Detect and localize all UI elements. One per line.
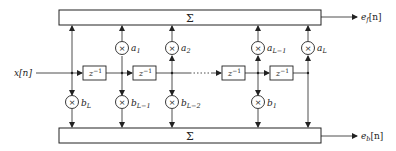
svg-text:a1: a1 — [131, 43, 141, 55]
forward-error-output: ef[n] — [321, 12, 382, 24]
delay-block-1: z−1 — [83, 66, 106, 80]
multiplier-b-L-minus-2: × bL−2 — [166, 96, 201, 111]
multiplier-b-L: × bL — [66, 96, 92, 111]
multiplier-a-L-minus-1: × aL−1 — [252, 42, 287, 56]
block-diagram: Σ Σ ef[n] eb[n] x[n] — [0, 0, 396, 151]
multiplier-a-L: × aL — [302, 42, 327, 56]
svg-text:bL−1: bL−1 — [131, 98, 151, 110]
multiplier-b-L-minus-1: × bL−1 — [116, 96, 151, 111]
svg-text:a2: a2 — [181, 43, 191, 55]
svg-text:bL−2: bL−2 — [181, 98, 201, 110]
multiplier-a-1: × a1 — [116, 42, 141, 56]
input-label: x[n] — [14, 68, 32, 78]
backward-error-output: eb[n] — [321, 131, 383, 143]
svg-text:×: × — [119, 98, 126, 107]
svg-text:×: × — [255, 98, 262, 107]
multiplier-b-1: × b1 — [252, 96, 277, 111]
svg-text:bL: bL — [81, 98, 91, 110]
multiplier-a-2: × a2 — [166, 42, 191, 56]
svg-text:aL: aL — [317, 43, 327, 55]
input-signal: x[n] — [14, 68, 72, 78]
sum-top-symbol: Σ — [186, 12, 194, 25]
svg-text:×: × — [119, 44, 126, 53]
delay-block-4: z−1 — [270, 66, 293, 80]
sum-bottom-symbol: Σ — [186, 130, 194, 143]
delay-block-3: z−1 — [222, 66, 245, 80]
svg-text:×: × — [255, 44, 262, 53]
svg-text:×: × — [69, 98, 76, 107]
forward-error-label: ef[n] — [361, 12, 382, 24]
sum-bottom-block: Σ — [59, 128, 321, 143]
svg-text:aL−1: aL−1 — [267, 43, 286, 55]
backward-error-label: eb[n] — [361, 131, 383, 143]
svg-text:×: × — [169, 98, 176, 107]
svg-text:b1: b1 — [267, 98, 277, 110]
svg-text:×: × — [169, 44, 176, 53]
sum-top-block: Σ — [59, 10, 321, 25]
delay-block-2: z−1 — [133, 66, 156, 80]
svg-text:×: × — [305, 44, 312, 53]
